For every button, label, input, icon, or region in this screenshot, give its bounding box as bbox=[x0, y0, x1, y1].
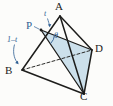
leader-arrow-one-minus-t bbox=[14, 45, 18, 63]
segment-label-t: t bbox=[44, 10, 46, 18]
vertex-label-d: D bbox=[95, 43, 103, 54]
leader-p bbox=[34, 27, 40, 30]
segment-label-one-minus-t: 1–t bbox=[7, 36, 17, 44]
vertex-label-c: C bbox=[80, 91, 87, 102]
vertex-label-b: B bbox=[5, 65, 12, 76]
point-p-dot bbox=[40, 29, 43, 32]
angle-label-theta: θ bbox=[54, 32, 58, 40]
vertex-label-a: A bbox=[55, 1, 63, 12]
vertex-label-p: P bbox=[26, 20, 32, 31]
leader-arrow-t-head bbox=[48, 24, 51, 27]
geometry-figure: A B C D P t 1–t θ bbox=[0, 0, 113, 106]
